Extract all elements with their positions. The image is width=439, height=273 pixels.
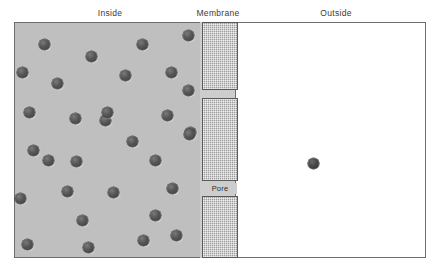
solute-particle-inside [62, 186, 73, 197]
solute-particle-inside [83, 242, 94, 253]
solute-particle-inside [162, 110, 173, 121]
solute-particle-inside [24, 107, 35, 118]
outside-region [235, 22, 426, 258]
solute-particle-inside [167, 183, 178, 194]
solute-particle-inside [150, 155, 161, 166]
membrane-diffusion-diagram: Inside Membrane Outside Pore [0, 0, 439, 273]
pore-label: Pore [203, 183, 237, 194]
solute-particle-inside [52, 78, 63, 89]
outside-label: Outside [286, 8, 386, 18]
solute-particle-inside [171, 230, 182, 241]
solute-particle-inside [43, 155, 54, 166]
solute-particle-inside [39, 39, 50, 50]
solute-particle-outside [308, 158, 319, 169]
membrane-block-bottom [202, 196, 238, 258]
inside-label: Inside [60, 8, 160, 18]
solute-particle-inside [17, 67, 28, 78]
solute-particle-inside [183, 85, 194, 96]
solute-particle-inside [15, 193, 26, 204]
solute-particle-inside [86, 51, 97, 62]
solute-particle-inside [102, 107, 113, 118]
membrane-label: Membrane [183, 8, 253, 18]
membrane-block-middle [202, 98, 238, 181]
solute-particle-inside [70, 113, 81, 124]
solute-particle-inside [137, 39, 148, 50]
solute-particle-inside [183, 30, 194, 41]
solute-particle-inside [108, 187, 119, 198]
solute-particle-inside [184, 129, 195, 140]
solute-particle-inside [120, 70, 131, 81]
solute-particle-inside [28, 145, 39, 156]
solute-particle-inside [150, 210, 161, 221]
membrane-block-top [202, 22, 238, 90]
solute-particle-inside [138, 235, 149, 246]
solute-particle-inside [77, 215, 88, 226]
solute-particle-inside [127, 136, 138, 147]
solute-particle-inside [22, 239, 33, 250]
solute-particle-inside [166, 67, 177, 78]
inside-region [14, 22, 200, 258]
solute-particle-inside [71, 156, 82, 167]
